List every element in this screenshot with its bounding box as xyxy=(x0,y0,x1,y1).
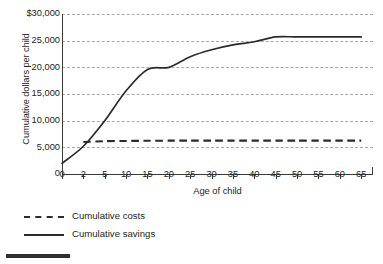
y-tick-label: 20,000 xyxy=(12,63,60,72)
y-tick-label: 5,000 xyxy=(12,143,60,152)
x-axis-title: Age of child xyxy=(62,186,373,196)
series-plot xyxy=(62,14,373,175)
legend-item-cumulative-costs: Cumulative costs xyxy=(24,208,284,226)
x-tick-label: 65 xyxy=(346,168,376,180)
y-tick-label: 10,000 xyxy=(12,116,60,125)
y-axis-tick-labels: 05,00010,00015,00020,00025,000$30,000 xyxy=(12,0,60,185)
legend-label-cumulative-costs: Cumulative costs xyxy=(72,210,145,222)
y-tick-label: 25,000 xyxy=(12,36,60,45)
chart-figure: Cumulative dollars per child 05,00010,00… xyxy=(0,0,383,264)
plot-area xyxy=(62,14,373,175)
line-cumulative-costs xyxy=(83,141,361,142)
bottom-rule xyxy=(6,254,70,258)
chart-legend: Cumulative costs Cumulative savings xyxy=(24,208,284,244)
legend-label-cumulative-savings: Cumulative savings xyxy=(72,228,155,240)
legend-item-cumulative-savings: Cumulative savings xyxy=(24,226,284,244)
line-cumulative-savings xyxy=(62,37,361,164)
legend-swatch-solid-line xyxy=(24,234,64,236)
legend-swatch-dashed-line xyxy=(24,216,64,218)
y-tick-label: 15,000 xyxy=(12,89,60,98)
y-tick-label: $30,000 xyxy=(12,9,60,18)
x-axis-tick-labels: 025101520253035404550556065 xyxy=(62,168,373,182)
